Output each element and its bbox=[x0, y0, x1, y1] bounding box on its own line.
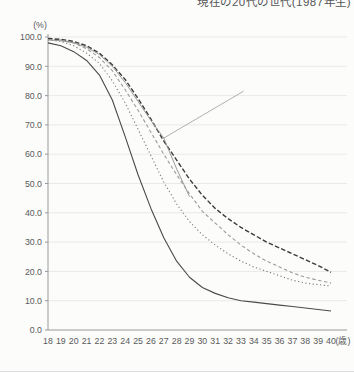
y-tick-label: 100.0 bbox=[20, 32, 42, 42]
y-tick-label: 60.0 bbox=[25, 149, 42, 159]
x-tick-label: 35 bbox=[262, 336, 272, 346]
series-cohort-dashed-dark bbox=[48, 38, 331, 272]
y-tick-label: 10.0 bbox=[25, 296, 42, 306]
x-tick-label: 36 bbox=[275, 336, 285, 346]
x-tick-label: 38 bbox=[300, 336, 310, 346]
x-tick-label: 19 bbox=[56, 336, 66, 346]
x-tick-label: 21 bbox=[82, 336, 92, 346]
y-tick-label: 20.0 bbox=[25, 267, 42, 277]
chart-page: 現在の20代の世代(1987年生) 0.010.020.030.040.050.… bbox=[0, 0, 354, 372]
x-tick-label: 22 bbox=[95, 336, 105, 346]
series-cohort-oldest-solid bbox=[48, 43, 331, 311]
y-tick-label: 70.0 bbox=[25, 120, 42, 130]
cutoff-cohort-label: 現在の20代の世代(1987年生) bbox=[197, 0, 351, 9]
x-tick-label: 29 bbox=[185, 336, 195, 346]
label-leader-line bbox=[164, 91, 244, 138]
x-tick-label: 33 bbox=[236, 336, 246, 346]
y-tick-label: 80.0 bbox=[25, 91, 42, 101]
x-tick-label: 30 bbox=[197, 336, 207, 346]
x-tick-label: 26 bbox=[146, 336, 156, 346]
x-tick-label: 34 bbox=[249, 336, 259, 346]
x-tick-label: 20 bbox=[69, 336, 79, 346]
x-tick-label: 23 bbox=[107, 336, 117, 346]
x-tick-label: 39 bbox=[313, 336, 323, 346]
x-tick-label: 28 bbox=[172, 336, 182, 346]
x-unit-label: (歳) bbox=[336, 335, 351, 346]
y-tick-label: 0.0 bbox=[30, 325, 42, 335]
x-tick-label: 31 bbox=[210, 336, 220, 346]
y-tick-label: 50.0 bbox=[25, 179, 42, 189]
x-tick-label: 40 bbox=[326, 336, 336, 346]
x-tick-label: 27 bbox=[159, 336, 169, 346]
x-tick-label: 18 bbox=[43, 336, 53, 346]
y-tick-label: 90.0 bbox=[25, 62, 42, 72]
x-tick-label: 37 bbox=[288, 336, 298, 346]
y-tick-label: 40.0 bbox=[25, 208, 42, 218]
y-tick-label: 30.0 bbox=[25, 237, 42, 247]
y-unit-label: (%) bbox=[33, 20, 47, 30]
x-tick-label: 25 bbox=[133, 336, 143, 346]
series-cohort-dotted bbox=[48, 40, 331, 286]
series-cohort-dashed-gray bbox=[48, 39, 331, 283]
x-tick-label: 32 bbox=[223, 336, 233, 346]
x-tick-label: 24 bbox=[120, 336, 130, 346]
